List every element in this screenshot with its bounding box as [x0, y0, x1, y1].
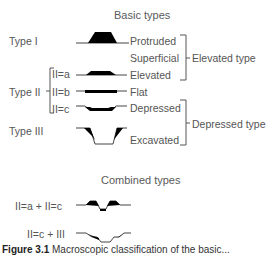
figure-caption: Figure 3.1 Macroscopic classification of… [2, 244, 230, 255]
type-2-bracket [50, 68, 54, 113]
elevated-profile-icon [76, 71, 127, 75]
elevated-bracket [180, 35, 186, 80]
flat-profile-icon [76, 90, 127, 93]
caption-text: Macroscopic classification of the basic.… [52, 244, 230, 255]
depressed-profile-icon [76, 106, 127, 111]
caption-label: Figure 3.1 [2, 244, 49, 255]
depressed-bracket [180, 100, 186, 145]
combined-iic-iii-profile-icon [76, 233, 131, 242]
protruded-profile-icon [76, 32, 129, 43]
excavated-profile-icon [76, 128, 127, 144]
combined-iia-iic-profile-icon [76, 201, 131, 211]
